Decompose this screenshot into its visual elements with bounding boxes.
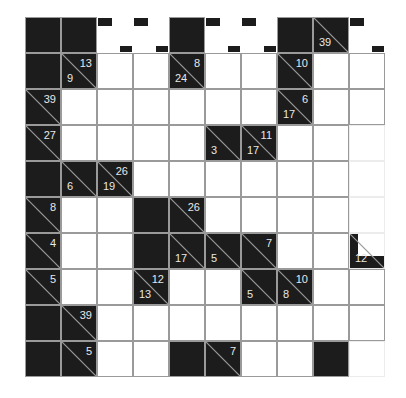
entry-cell[interactable]: [97, 53, 133, 89]
entry-cell[interactable]: [133, 161, 169, 197]
entry-cell[interactable]: [205, 161, 241, 197]
clue-cell: 824: [169, 53, 205, 89]
entry-cell[interactable]: [61, 125, 97, 161]
entry-cell[interactable]: [349, 269, 385, 305]
entry-cell[interactable]: [205, 89, 241, 125]
entry-cell[interactable]: [61, 89, 97, 125]
across-clue-sum: 8: [194, 58, 200, 69]
down-clue-sum: 17: [283, 109, 295, 120]
down-clue-sum: 3: [211, 145, 217, 156]
clue-cell: 17: [169, 233, 205, 269]
occlusion-fragment: [350, 18, 364, 26]
entry-cell[interactable]: [205, 305, 241, 341]
entry-cell[interactable]: [277, 125, 313, 161]
entry-cell[interactable]: [97, 305, 133, 341]
entry-cell[interactable]: [97, 89, 133, 125]
entry-cell[interactable]: [277, 197, 313, 233]
across-clue-sum: 13: [80, 58, 92, 69]
across-clue-sum: 11: [261, 130, 272, 141]
entry-cell[interactable]: [349, 53, 385, 89]
across-clue-sum: 7: [266, 238, 272, 249]
clue-cell: 27: [25, 125, 61, 161]
clue-cell: 12: [349, 233, 385, 269]
clue-cell: 5: [25, 269, 61, 305]
entry-cell[interactable]: [313, 269, 349, 305]
entry-cell[interactable]: [133, 89, 169, 125]
entry-cell[interactable]: [169, 305, 205, 341]
entry-cell[interactable]: [313, 233, 349, 269]
down-clue-sum: 6: [67, 181, 73, 192]
entry-cell[interactable]: [313, 89, 349, 125]
entry-cell[interactable]: [205, 269, 241, 305]
clue-cell: 5: [61, 341, 97, 377]
entry-cell[interactable]: [169, 125, 205, 161]
clue-cell: 1117: [241, 125, 277, 161]
occlusion-fragment: [242, 18, 256, 26]
entry-cell[interactable]: [61, 197, 97, 233]
entry-cell[interactable]: [61, 233, 97, 269]
down-clue-sum: 5: [247, 289, 253, 300]
entry-cell[interactable]: [133, 341, 169, 377]
across-clue-sum: 6: [302, 94, 308, 105]
occlusion-fragment: [264, 46, 276, 52]
block-cell: [25, 161, 61, 197]
entry-cell[interactable]: [349, 305, 385, 341]
block-cell: [313, 341, 349, 377]
entry-cell[interactable]: [241, 161, 277, 197]
occluded-cell: [349, 17, 385, 53]
across-clue-sum: 8: [50, 202, 56, 213]
entry-cell[interactable]: [349, 89, 385, 125]
entry-cell[interactable]: [97, 269, 133, 305]
across-clue-sum: 39: [44, 94, 56, 105]
clue-cell: 39: [25, 89, 61, 125]
entry-cell[interactable]: [169, 89, 205, 125]
entry-cell[interactable]: [313, 53, 349, 89]
entry-cell[interactable]: [241, 89, 277, 125]
block-cell: [277, 17, 313, 53]
entry-cell[interactable]: [169, 161, 205, 197]
entry-cell[interactable]: [133, 53, 169, 89]
entry-cell[interactable]: [313, 305, 349, 341]
entry-cell[interactable]: [205, 53, 241, 89]
clue-cell: 2619: [97, 161, 133, 197]
entry-cell[interactable]: [277, 233, 313, 269]
clue-cell: 7: [205, 341, 241, 377]
down-clue-sum: 9: [67, 73, 73, 84]
clue-cell: 617: [277, 89, 313, 125]
entry-cell[interactable]: [97, 125, 133, 161]
block-cell: [169, 341, 205, 377]
entry-cell[interactable]: [277, 341, 313, 377]
entry-cell[interactable]: [313, 197, 349, 233]
entry-cell[interactable]: [97, 233, 133, 269]
clue-cell: 5: [241, 269, 277, 305]
clue-cell: 10: [277, 53, 313, 89]
entry-cell[interactable]: [133, 125, 169, 161]
across-clue-sum: 12: [152, 274, 164, 285]
occlusion-fragment: [228, 46, 240, 52]
entry-cell[interactable]: [277, 161, 313, 197]
entry-cell[interactable]: [241, 341, 277, 377]
entry-cell[interactable]: [349, 125, 385, 161]
entry-cell[interactable]: [205, 197, 241, 233]
entry-cell[interactable]: [97, 197, 133, 233]
clue-cell: 4: [25, 233, 61, 269]
entry-cell[interactable]: [133, 305, 169, 341]
entry-cell[interactable]: [241, 197, 277, 233]
entry-cell[interactable]: [349, 161, 385, 197]
entry-cell[interactable]: [169, 269, 205, 305]
entry-cell[interactable]: [241, 305, 277, 341]
entry-cell[interactable]: [277, 305, 313, 341]
entry-cell[interactable]: [313, 161, 349, 197]
entry-cell[interactable]: [241, 53, 277, 89]
down-clue-sum: 39: [319, 37, 331, 48]
entry-cell[interactable]: [61, 269, 97, 305]
entry-cell[interactable]: [97, 341, 133, 377]
across-clue-sum: 4: [50, 238, 56, 249]
entry-cell[interactable]: [349, 341, 385, 377]
clue-cell: 139: [61, 53, 97, 89]
entry-cell[interactable]: [349, 197, 385, 233]
block-cell: [25, 305, 61, 341]
across-clue-sum: 26: [116, 166, 128, 177]
entry-cell[interactable]: [313, 125, 349, 161]
clue-cell: 7: [241, 233, 277, 269]
